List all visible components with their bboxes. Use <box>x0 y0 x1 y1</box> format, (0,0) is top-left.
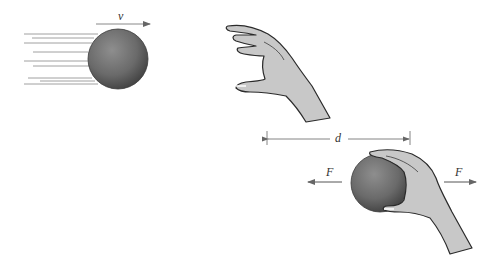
open-hand <box>226 25 330 122</box>
velocity-label: v <box>118 10 123 22</box>
speed-lines <box>24 34 98 84</box>
moving-ball <box>88 29 148 89</box>
force-left-label: F <box>326 166 333 178</box>
distance-label: d <box>335 132 341 144</box>
diagram-canvas <box>0 0 500 262</box>
force-right-label: F <box>455 166 462 178</box>
